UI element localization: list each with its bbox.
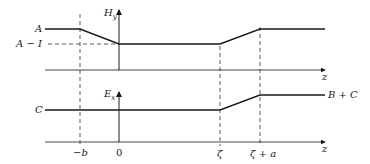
tick-zeta-plus-a: ζ + a xyxy=(250,148,276,159)
ex-profile xyxy=(45,95,325,110)
level-a-label: A xyxy=(34,23,42,34)
tick-zero: 0 xyxy=(116,147,122,158)
bottom-z-label: z xyxy=(321,143,328,154)
top-z-label: z xyxy=(321,71,328,82)
level-b-plus-c-label: B + C xyxy=(327,89,358,100)
ex-axis-label: Ex xyxy=(103,88,115,102)
hy-axis-label: Hy xyxy=(103,7,118,21)
tick-zeta: ζ xyxy=(217,148,223,159)
hy-profile xyxy=(45,29,325,44)
tick-minus-b: −b xyxy=(73,147,88,158)
field-profile-diagram: Hy A A − I z Ex C B + C z −b 0 ζ ζ + a xyxy=(0,0,370,164)
level-a-minus-i-label: A − I xyxy=(15,38,43,49)
level-c-label: C xyxy=(35,104,43,115)
